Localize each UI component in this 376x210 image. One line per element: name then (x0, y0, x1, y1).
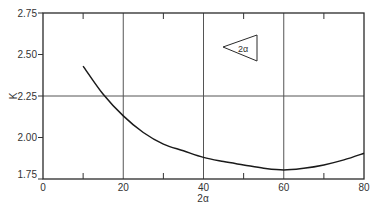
y-tick-label: 1.75 (18, 169, 38, 180)
inset-label: 2α (238, 44, 248, 54)
y-tick-label: 2.25 (18, 91, 38, 102)
y-tick-label: 2.00 (18, 132, 38, 143)
y-tick-label: 2.75 (18, 8, 38, 19)
x-tick-label: 20 (118, 182, 130, 193)
y-tick-labels: 1.752.002.252.502.75 (18, 8, 38, 181)
inset-triangle-icon: 2α (223, 35, 257, 61)
x-tick-label: 40 (198, 182, 210, 193)
x-tick-labels: 020406080 (40, 182, 370, 193)
gridlines (43, 13, 364, 179)
data-curve (83, 66, 364, 170)
y-tick-label: 2.50 (18, 49, 38, 60)
x-tick-label: 80 (358, 182, 370, 193)
y-axis-title: K (8, 92, 19, 99)
x-tick-label: 60 (278, 182, 290, 193)
x-tick-label: 0 (40, 182, 46, 193)
x-axis-title: 2α (197, 193, 209, 204)
chart: 020406080 1.752.002.252.502.75 2α K 2α (0, 0, 376, 210)
